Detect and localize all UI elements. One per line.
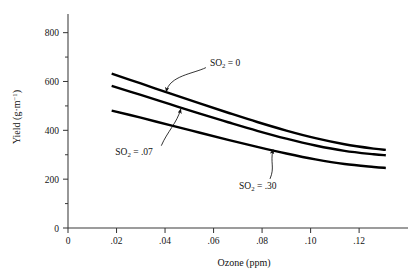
y-axis-title: Yield (g·m−1) bbox=[11, 90, 23, 144]
annotation-so2-text-0: SO bbox=[210, 58, 222, 68]
y-axis-title-exponent: −1 bbox=[11, 93, 18, 100]
y-axis-title-main: Yield (g·m bbox=[11, 100, 23, 144]
annotation-leader-2 bbox=[270, 149, 273, 179]
y-tick-label: 0 bbox=[54, 224, 59, 234]
x-tick-label: .10 bbox=[305, 236, 317, 246]
y-tick-label: 400 bbox=[45, 126, 60, 136]
annotation-so2-text-2: SO bbox=[239, 181, 251, 191]
x-tick-label: .04 bbox=[159, 236, 171, 246]
y-axis-title-close: ) bbox=[11, 90, 23, 93]
annotation-leader-0 bbox=[166, 68, 206, 92]
annotation-label-1: SO2 = .07 bbox=[115, 147, 153, 158]
chart-figure: 02004006008000.02.04.06.08.10.12SO2 = 0S… bbox=[0, 0, 412, 278]
annotation-so2-value-1: = .07 bbox=[131, 147, 153, 157]
annotation-so2-value-0: = 0 bbox=[225, 58, 240, 68]
x-axis-title: Ozone (ppm) bbox=[217, 257, 270, 269]
x-tick-label: .08 bbox=[256, 236, 268, 246]
x-tick-label: 0 bbox=[66, 236, 71, 246]
series-curve-0 bbox=[112, 74, 386, 150]
annotation-label-0: SO2 = 0 bbox=[210, 58, 241, 69]
y-tick-label: 600 bbox=[45, 77, 60, 87]
annotation-label-2: SO2 = .30 bbox=[239, 181, 277, 192]
y-tick-label: 200 bbox=[45, 175, 60, 185]
x-tick-label: .12 bbox=[353, 236, 365, 246]
annotation-so2-value-2: = .30 bbox=[255, 181, 277, 191]
y-tick-label: 800 bbox=[45, 28, 60, 38]
annotation-so2-text-1: SO bbox=[115, 147, 127, 157]
ozone-yield-line-chart: 02004006008000.02.04.06.08.10.12SO2 = 0S… bbox=[0, 0, 412, 278]
x-tick-label: .06 bbox=[208, 236, 220, 246]
x-tick-label: .02 bbox=[111, 236, 123, 246]
